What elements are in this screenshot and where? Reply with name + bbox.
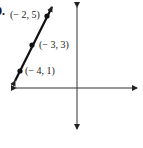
point-label: (− 4, 1) [25, 65, 55, 76]
point-marker [44, 13, 49, 18]
coordinate-plane [0, 0, 143, 148]
point-marker [17, 68, 22, 73]
point-marker [29, 42, 34, 47]
point-label: (− 3, 3) [39, 39, 69, 50]
point-label: (− 2, 5) [10, 9, 40, 20]
